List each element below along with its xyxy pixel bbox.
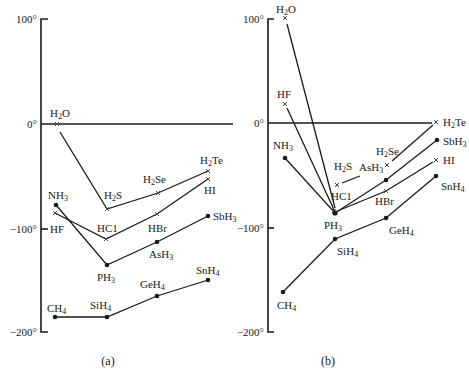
- y-axis-a: [41, 19, 48, 332]
- point-label-geh4-a: GeH4: [140, 278, 165, 292]
- point-label-nh3-a: NH3: [48, 189, 68, 203]
- point-label-sbh3-b: SbH3: [443, 135, 467, 149]
- point-label-h2o-b: H2O: [276, 3, 296, 17]
- point-label-hf-b: HF: [277, 88, 291, 100]
- point-label-hbr-a: HBr: [148, 222, 167, 234]
- y-tick-label-0-a: 0°: [27, 118, 37, 130]
- point-label-ph3-b: PH3: [324, 219, 342, 233]
- y-tick-label-minus100-b: −100°: [237, 222, 264, 234]
- chart-panel-b: 100° 0° −100° −200°: [237, 3, 467, 368]
- point-label-ch4-b: CH4: [277, 299, 296, 313]
- point-label-h2se-b: H2Se: [376, 145, 399, 159]
- point-label-ph3-a: PH3: [97, 271, 115, 285]
- y-tick-label-100-a: 100°: [16, 13, 37, 25]
- y-axis-b: [268, 19, 274, 332]
- point-label-snh4-b: SnH4: [441, 180, 465, 194]
- point-label-sbh3-a: SbH3: [213, 210, 237, 224]
- y-tick-label-minus200-a: −200°: [10, 326, 37, 338]
- series-group14-line-a: [55, 280, 208, 317]
- series-group15-line-b: [285, 140, 437, 213]
- series-group15-line-a: [56, 205, 208, 265]
- point-label-h2s-a: H2S: [104, 189, 122, 203]
- point-label-h2te-b: H2Te: [443, 116, 466, 130]
- hydride-boiling-melting-charts: 100° 0° −100° −200°: [0, 0, 469, 380]
- point-label-h2s-b: H2S: [334, 160, 352, 174]
- point-label-hcl-b: HC1: [331, 190, 352, 202]
- point-label-geh4-b: GeH4: [389, 224, 414, 238]
- point-label-ch4-a: CH4: [47, 302, 66, 316]
- series-group16-line-b: [287, 24, 335, 208]
- point-label-ash3-a: AsH3: [149, 248, 173, 262]
- point-label-h2se-a: H2Se: [143, 173, 166, 187]
- panel-caption-b: (b): [321, 354, 335, 368]
- series-group16-seg-b: [342, 176, 360, 183]
- point-label-hi-b: HI: [443, 154, 455, 166]
- x-marker-icon: [283, 16, 438, 213]
- y-tick-label-minus200-b: −200°: [237, 326, 264, 338]
- point-label-snh4-a: SnH4: [196, 264, 220, 278]
- chart-panel-a: 100° 0° −100° −200°: [10, 13, 237, 368]
- point-label-hcl-a: HC1: [97, 222, 118, 234]
- point-label-nh3-b: NH3: [273, 139, 293, 153]
- point-label-sih4-a: SiH4: [90, 299, 111, 313]
- y-tick-label-100-b: 100°: [243, 13, 264, 25]
- point-label-hf-a: HF: [50, 223, 64, 235]
- panel-caption-a: (a): [101, 354, 114, 368]
- point-label-h2te-a: H2Te: [200, 154, 223, 168]
- point-label-ash3-b: AsH3: [359, 161, 383, 175]
- dot-marker-icon: [53, 203, 211, 320]
- point-label-sih4-b: SiH4: [337, 245, 358, 259]
- point-label-hi-a: HI: [204, 184, 216, 196]
- point-label-hbr-b: HBr: [375, 195, 394, 207]
- point-label-h2o-a: H2O: [50, 107, 70, 121]
- x-marker-icon: [53, 122, 210, 241]
- y-tick-label-0-b: 0°: [254, 117, 264, 129]
- y-tick-label-minus100-a: −100°: [10, 223, 37, 235]
- series-group16-line-a: [60, 132, 208, 209]
